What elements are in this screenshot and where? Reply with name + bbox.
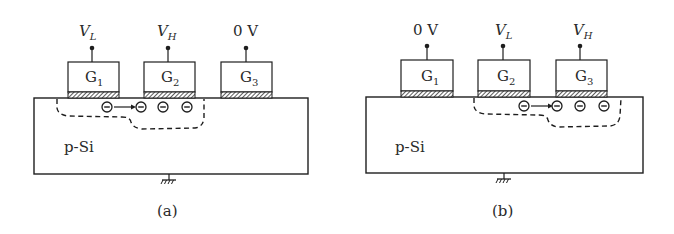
oxide-layer: [68, 92, 119, 98]
terminal-dot: [90, 46, 95, 51]
electrons: [519, 101, 609, 111]
electron-icon: [519, 101, 529, 111]
potential-well-boundary: [474, 98, 621, 127]
terminal-dot: [425, 44, 430, 49]
arrow-icon: [531, 104, 553, 109]
p-si-substrate: [34, 98, 308, 174]
oxide-layer: [221, 92, 272, 98]
panel-b: G1 0 V G2 VL G3 VH: [366, 21, 643, 220]
terminal-dot: [244, 46, 249, 51]
panel-a: G1 VL G2 VH G3 0 V: [34, 22, 308, 220]
ground-icon: [161, 174, 176, 184]
oxide-layer: [401, 91, 453, 97]
substrate-label: p-Si: [395, 138, 425, 156]
voltage-label: VL: [79, 22, 97, 42]
gate-g2: G2 VH: [144, 22, 195, 98]
voltage-label: VH: [157, 22, 177, 42]
voltage-label: VL: [495, 21, 513, 41]
electron-icon: [552, 101, 562, 111]
gate-g2: G2 VL: [478, 21, 530, 97]
arrow-icon: [114, 105, 136, 110]
oxide-layer: [478, 91, 530, 97]
potential-well-boundary: [57, 99, 204, 129]
voltage-label: VH: [573, 21, 593, 41]
voltage-label: 0 V: [233, 22, 259, 40]
panel-caption: (a): [157, 202, 178, 220]
electron-icon: [102, 102, 112, 112]
ccd-charge-transfer-diagram: G1 VL G2 VH G3 0 V: [0, 0, 674, 234]
electron-icon: [599, 101, 609, 111]
gate-g1: G1 VL: [68, 22, 119, 98]
gate-g1: G1 0 V: [401, 21, 453, 97]
electron-icon: [158, 102, 168, 112]
gate-g3: G3 0 V: [221, 22, 272, 98]
electrons: [102, 102, 192, 112]
electron-icon: [182, 102, 192, 112]
gate-g3: G3 VH: [556, 21, 607, 97]
substrate-label: p-Si: [64, 138, 94, 156]
electron-icon: [575, 101, 585, 111]
electron-icon: [136, 102, 146, 112]
terminal-dot: [501, 44, 506, 49]
panel-caption: (b): [492, 202, 513, 220]
ground-icon: [496, 173, 511, 183]
terminal-dot: [166, 46, 171, 51]
oxide-layer: [144, 92, 195, 98]
terminal-dot: [578, 44, 583, 49]
voltage-label: 0 V: [413, 21, 439, 39]
oxide-layer: [556, 91, 607, 97]
